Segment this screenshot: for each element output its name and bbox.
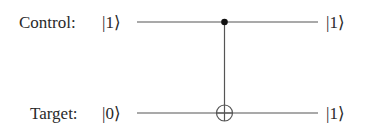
control-label: Control:	[19, 14, 76, 31]
control-dot-icon	[221, 19, 228, 26]
control-output-state: |1⟩	[326, 14, 345, 31]
target-output-state: |1⟩	[326, 105, 345, 122]
target-label: Target:	[30, 105, 78, 122]
cnot-circuit-diagram: Control: |1⟩ |1⟩ Target: |0⟩ |1⟩	[0, 0, 366, 134]
control-input-state: |1⟩	[102, 14, 121, 31]
target-input-state: |0⟩	[102, 105, 121, 122]
